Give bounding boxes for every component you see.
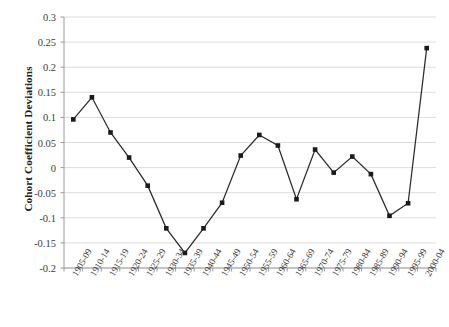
x-axis-tick-labels: 1905-091910-141915-191920-241925-291930-… bbox=[0, 0, 449, 327]
cohort-coefficient-deviations-chart: Cohort Coefficient Deviations 0.30.250.2… bbox=[0, 0, 449, 327]
